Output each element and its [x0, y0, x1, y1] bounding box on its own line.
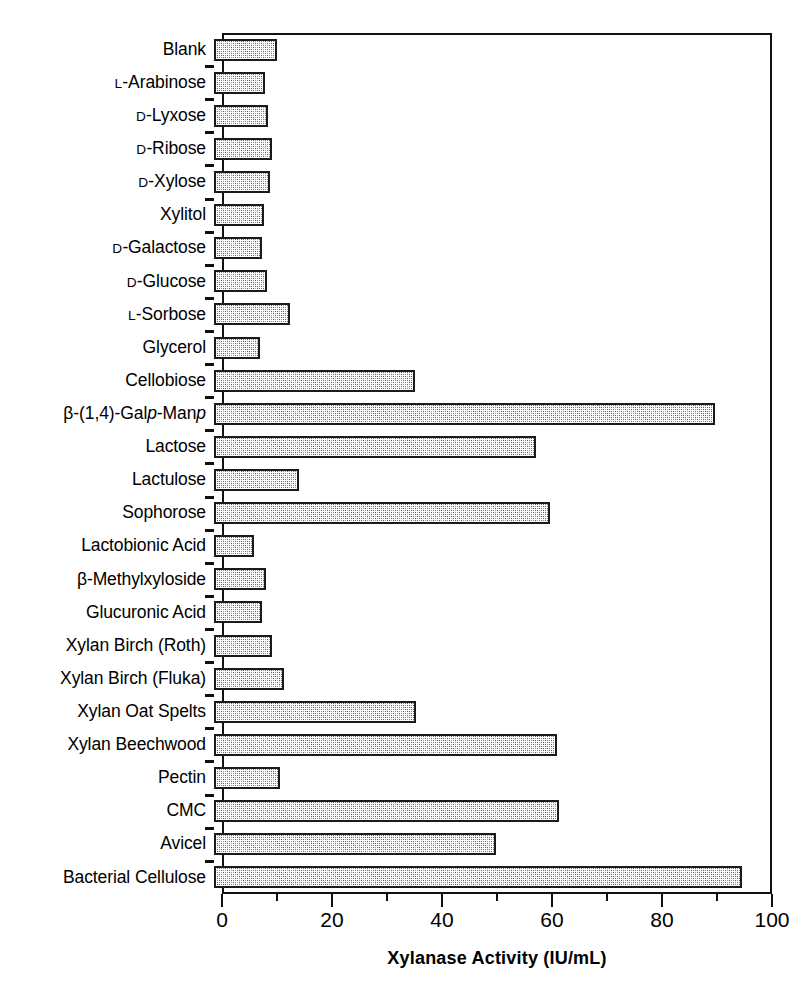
bar-track [214, 828, 790, 861]
bar[interactable] [214, 303, 290, 325]
label-stereo-prefix: D [112, 241, 122, 256]
category-label: Bacterial Cellulose [0, 869, 214, 887]
category-label: Pectin [0, 769, 214, 787]
x-axis-title: Xylanase Activity (IU/mL) [222, 948, 772, 969]
bar-track [214, 463, 790, 496]
category-label: Xylan Oat Spelts [0, 703, 214, 721]
bar-row: L-Sorbose [0, 298, 790, 331]
bar[interactable] [214, 237, 262, 259]
x-axis-major-tick [331, 894, 333, 907]
bar-row: D-Lyxose [0, 99, 790, 132]
bar[interactable] [214, 403, 715, 425]
category-label: Glycerol [0, 339, 214, 357]
bar-row: Glycerol [0, 331, 790, 364]
category-label: L-Arabinose [0, 74, 214, 92]
category-label: D-Glucose [0, 273, 214, 291]
bar-track [214, 662, 790, 695]
bar[interactable] [214, 436, 536, 458]
bar-rows-container: BlankL-ArabinoseD-LyxoseD-RiboseD-Xylose… [0, 33, 790, 894]
bar-track [214, 563, 790, 596]
bar-row: D-Glucose [0, 265, 790, 298]
bar-row: β-Methylxyloside [0, 563, 790, 596]
bar[interactable] [214, 535, 254, 557]
x-axis-major-tick [441, 894, 443, 907]
bar[interactable] [214, 337, 260, 359]
bar-track [214, 132, 790, 165]
category-label: CMC [0, 802, 214, 820]
x-axis-minor-tick [276, 894, 278, 901]
category-label: Xylan Birch (Roth) [0, 637, 214, 655]
bar-row: D-Ribose [0, 132, 790, 165]
category-label: Lactose [0, 438, 214, 456]
bar[interactable] [214, 767, 280, 789]
bar[interactable] [214, 138, 272, 160]
x-axis-minor-tick [386, 894, 388, 901]
category-label: Glucuronic Acid [0, 604, 214, 622]
bar-track [214, 596, 790, 629]
bar[interactable] [214, 800, 559, 822]
bar-row: Blank [0, 33, 790, 66]
bar[interactable] [214, 601, 262, 623]
bar-track [214, 761, 790, 794]
bar[interactable] [214, 866, 742, 888]
bar-track [214, 99, 790, 132]
bar-row: β-(1,4)-Galp-Manp [0, 397, 790, 430]
bar-track [214, 795, 790, 828]
x-axis-major-tick [771, 894, 773, 907]
bar-track [214, 695, 790, 728]
bar-row: Lactobionic Acid [0, 530, 790, 563]
label-stereo-prefix: D [136, 109, 146, 124]
label-stereo-prefix: L [115, 76, 123, 91]
bar-row: Xylitol [0, 199, 790, 232]
bar-track [214, 364, 790, 397]
category-label: Lactobionic Acid [0, 537, 214, 555]
category-label: Lactulose [0, 471, 214, 489]
bar-row: Avicel [0, 828, 790, 861]
bar-track [214, 530, 790, 563]
bar[interactable] [214, 270, 267, 292]
bar[interactable] [214, 668, 284, 690]
bar[interactable] [214, 370, 415, 392]
bar-row: Sophorose [0, 497, 790, 530]
category-label: D-Lyxose [0, 107, 214, 125]
bar-row: Xylan Birch (Roth) [0, 629, 790, 662]
bar-track [214, 33, 790, 66]
bar-track [214, 232, 790, 265]
label-stereo-prefix: D [127, 275, 137, 290]
category-label: Cellobiose [0, 372, 214, 390]
bar[interactable] [214, 171, 270, 193]
bar-track [214, 397, 790, 430]
bar[interactable] [214, 72, 265, 94]
bar[interactable] [214, 105, 268, 127]
bar-row: Lactose [0, 430, 790, 463]
bar-row: D-Galactose [0, 232, 790, 265]
bar-track [214, 629, 790, 662]
bar-row: Pectin [0, 761, 790, 794]
category-label: D-Galactose [0, 239, 214, 257]
bar-row: Xylan Beechwood [0, 728, 790, 761]
bar-track [214, 430, 790, 463]
bar-row: Glucuronic Acid [0, 596, 790, 629]
bar-track [214, 165, 790, 198]
bar[interactable] [214, 833, 496, 855]
category-label: Avicel [0, 835, 214, 853]
bar-row: Lactulose [0, 463, 790, 496]
x-axis-tick-label: 60 [540, 909, 563, 930]
bar[interactable] [214, 204, 264, 226]
category-label: D-Ribose [0, 140, 214, 158]
category-label: D-Xylose [0, 173, 214, 191]
bar-track [214, 66, 790, 99]
bar[interactable] [214, 568, 266, 590]
bar-row: Xylan Birch (Fluka) [0, 662, 790, 695]
bar[interactable] [214, 502, 550, 524]
bar[interactable] [214, 469, 299, 491]
bar[interactable] [214, 39, 277, 61]
x-axis-tick-label: 20 [320, 909, 343, 930]
label-stereo-prefix: D [136, 142, 146, 157]
bar[interactable] [214, 701, 416, 723]
bar-track [214, 265, 790, 298]
category-label: Sophorose [0, 504, 214, 522]
bar[interactable] [214, 635, 272, 657]
category-label: Xylitol [0, 206, 214, 224]
bar[interactable] [214, 734, 557, 756]
